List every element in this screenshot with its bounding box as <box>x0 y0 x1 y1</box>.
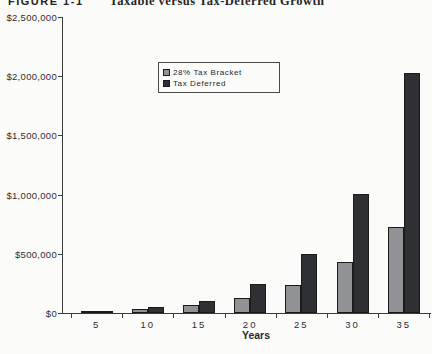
legend-label: 28% Tax Bracket <box>173 68 242 77</box>
y-tick-label: $1,500,000 <box>1 130 57 141</box>
x-axis-line <box>62 313 431 314</box>
x-tick-label: 15 <box>179 319 219 330</box>
y-tick-label: $2,000,000 <box>1 71 57 82</box>
bar-deferred-year-15 <box>199 301 215 313</box>
x-axis-tick <box>225 314 226 318</box>
legend-item: 28% Tax Bracket <box>163 67 275 77</box>
legend-swatch-tax-deferred <box>163 80 170 87</box>
x-axis-tick <box>429 314 430 318</box>
y-axis-line <box>62 17 63 313</box>
bar-taxable-year-5 <box>81 311 97 313</box>
bar-taxable-year-25 <box>285 285 301 313</box>
bar-taxable-year-10 <box>132 309 148 313</box>
x-axis-title: Years <box>226 329 286 341</box>
legend-label: Tax Deferred <box>173 79 226 88</box>
x-tick-label: 30 <box>333 319 373 330</box>
bar-deferred-year-5 <box>97 311 113 313</box>
bar-taxable-year-20 <box>234 298 250 313</box>
bar-deferred-year-30 <box>353 194 369 313</box>
x-axis-tick <box>173 314 174 318</box>
y-axis-tick <box>58 76 62 77</box>
x-axis-tick <box>327 314 328 318</box>
y-axis-tick <box>58 17 62 18</box>
y-tick-label: $1,000,000 <box>1 190 57 201</box>
x-axis-tick <box>122 314 123 318</box>
y-tick-label: $0 <box>1 308 57 319</box>
y-axis-tick <box>58 254 62 255</box>
y-tick-label: $2,500,000 <box>1 12 57 23</box>
bar-chart: $0$500,000$1,000,000$1,500,000$2,000,000… <box>0 0 432 354</box>
bar-deferred-year-20 <box>250 284 266 313</box>
y-tick-label: $500,000 <box>1 249 57 260</box>
bar-taxable-year-15 <box>183 305 199 313</box>
bar-taxable-year-30 <box>337 262 353 313</box>
legend-swatch-28pct-tax-bracket <box>163 69 170 76</box>
x-tick-label: 10 <box>128 319 168 330</box>
x-axis-tick <box>276 314 277 318</box>
bar-taxable-year-35 <box>388 227 404 313</box>
x-axis-tick <box>71 314 72 318</box>
x-tick-label: 25 <box>281 319 321 330</box>
bar-deferred-year-25 <box>301 254 317 313</box>
y-axis-tick <box>58 135 62 136</box>
bar-deferred-year-35 <box>404 73 420 313</box>
legend: 28% Tax Bracket Tax Deferred <box>158 62 280 93</box>
x-tick-label: 5 <box>77 319 117 330</box>
y-axis-tick <box>58 313 62 314</box>
x-tick-label: 35 <box>384 319 424 330</box>
y-axis-tick <box>58 195 62 196</box>
legend-item: Tax Deferred <box>163 78 275 88</box>
bar-deferred-year-10 <box>148 307 164 313</box>
x-axis-tick <box>378 314 379 318</box>
